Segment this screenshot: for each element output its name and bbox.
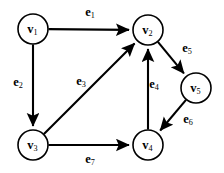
node-label-subscript: 5 <box>197 87 201 96</box>
edge-label-e3: e3 <box>76 75 86 89</box>
node-label-v2: v2 <box>142 23 152 37</box>
edge-label-e1: e1 <box>85 6 95 20</box>
node-label-subscript: 3 <box>34 144 38 153</box>
node-label-v4: v4 <box>142 138 152 152</box>
edge-e6 <box>160 100 186 131</box>
node-label-subscript: 2 <box>149 29 153 38</box>
edge-label-subscript: 6 <box>189 118 193 127</box>
edge-e3 <box>44 43 135 134</box>
node-label-v3: v3 <box>27 138 37 152</box>
node-label-subscript: 4 <box>149 144 153 153</box>
node-label-v5: v5 <box>190 81 200 95</box>
edge-e1 <box>48 29 129 30</box>
edge-label-e5: e5 <box>182 42 192 56</box>
node-label-subscript: 1 <box>34 28 38 37</box>
edge-label-subscript: 2 <box>19 81 23 90</box>
node-label-v1: v1 <box>27 22 37 36</box>
edge-e5 <box>158 42 184 73</box>
edge-label-subscript: 3 <box>82 80 86 89</box>
nodes-layer <box>18 14 211 160</box>
edge-label-e2: e2 <box>13 76 23 90</box>
edges-layer <box>33 29 186 145</box>
edge-label-e6: e6 <box>183 113 193 127</box>
edge-label-subscript: 4 <box>155 83 159 92</box>
edge-label-subscript: 1 <box>91 11 95 20</box>
edge-label-subscript: 7 <box>91 158 95 167</box>
edge-label-e4: e4 <box>149 78 159 92</box>
edge-label-e7: e7 <box>85 153 95 167</box>
directed-graph-figure: e1e2e3e4e5e6e7v1v2v3v4v5 <box>0 0 224 173</box>
edge-label-subscript: 5 <box>188 47 192 56</box>
